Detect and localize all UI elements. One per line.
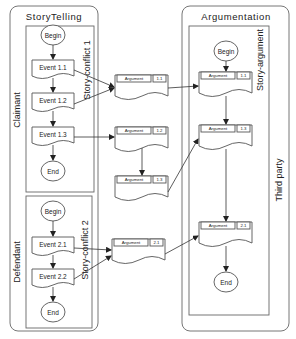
svg-text:Event 1.2: Event 1.2: [39, 97, 67, 104]
svg-text:End: End: [47, 168, 59, 175]
connector-argument-1-3-to-right: [168, 139, 198, 192]
connector-argument-1-1-to-right: [168, 86, 198, 88]
argument-2-1-middle[interactable]: Argument 2.1: [112, 239, 165, 264]
argument-1-1-right[interactable]: Argument 1.1: [199, 72, 252, 97]
argument-1-3-middle[interactable]: Argument 1.3: [115, 176, 168, 201]
story-conflict-2-flow: Begin Event 2.1 Event 2.2 End: [32, 201, 74, 322]
svg-text:1.3: 1.3: [241, 126, 248, 131]
svg-text:Begin: Begin: [45, 208, 62, 216]
argument-1-3-right[interactable]: Argument 1.3: [199, 125, 252, 150]
argument-2-1-right[interactable]: Argument 2.1: [199, 222, 252, 247]
storytelling-title: StoryTelling: [26, 11, 82, 22]
story-conflict-2-label: Story-conflict 2: [80, 220, 90, 280]
svg-text:2.1: 2.1: [241, 223, 248, 228]
story-conflict-1-label: Story-conflict 1: [82, 40, 92, 100]
svg-text:Argument: Argument: [125, 76, 144, 81]
story-argument-label: Story-argument: [255, 28, 265, 91]
svg-text:2.1: 2.1: [154, 240, 161, 245]
defendant-label: Defendant: [12, 241, 22, 283]
third-party-label: Third party: [274, 158, 284, 202]
argumentation-title: Argumentation: [201, 11, 271, 22]
svg-text:Event 1.1: Event 1.1: [39, 64, 67, 71]
svg-text:Argument: Argument: [125, 177, 144, 182]
svg-text:Event 1.3: Event 1.3: [39, 131, 67, 138]
argument-1-2-middle[interactable]: Argument 1.2: [115, 127, 168, 152]
svg-text:1.1: 1.1: [241, 73, 248, 78]
svg-text:1.1: 1.1: [157, 76, 164, 81]
svg-text:1.2: 1.2: [157, 128, 164, 133]
svg-text:Event 2.1: Event 2.1: [39, 241, 67, 248]
svg-text:Argument: Argument: [209, 126, 228, 131]
svg-text:Begin: Begin: [45, 32, 62, 40]
svg-text:1.3: 1.3: [157, 177, 164, 182]
connector-argument-2-1-to-right: [165, 236, 198, 254]
svg-text:Argument: Argument: [125, 128, 144, 133]
claimant-label: Claimant: [12, 92, 22, 128]
svg-text:Argument: Argument: [209, 73, 228, 78]
svg-text:Begin: Begin: [218, 48, 235, 56]
argument-1-1-middle[interactable]: Argument 1.1: [115, 75, 168, 100]
svg-text:Argument: Argument: [122, 240, 141, 245]
story-argument-flow: Begin Argument 1.1 Argument 1.3 Argument…: [199, 41, 252, 292]
svg-text:Event 2.2: Event 2.2: [39, 273, 67, 280]
story-conflict-1-flow: Begin Event 1.1 Event 1.2 Event 1.3 End: [32, 25, 74, 181]
svg-text:End: End: [220, 279, 232, 286]
middle-arguments: Argument 1.1 Argument 1.2 Argument 1.3 A…: [112, 75, 168, 264]
storytelling-argumentation-diagram: StoryTelling Claimant Defendant Story-co…: [0, 0, 296, 339]
svg-text:End: End: [47, 309, 59, 316]
svg-text:Argument: Argument: [209, 223, 228, 228]
